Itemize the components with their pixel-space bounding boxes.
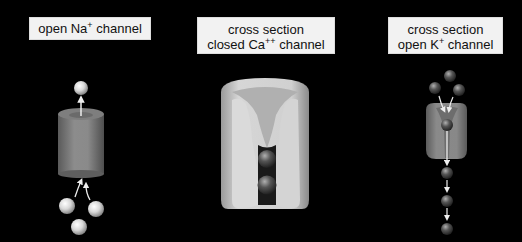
k-channel-panel (426, 70, 467, 235)
arrow-icon (86, 185, 90, 200)
na-channel-panel (58, 81, 104, 235)
k-ion (441, 119, 453, 131)
k-ion (441, 223, 453, 235)
ca-ion (258, 176, 277, 195)
na-ion (71, 219, 87, 235)
arrow-icon (75, 181, 81, 197)
na-ion (88, 201, 104, 217)
ca-channel-panel (221, 78, 309, 209)
k-ion (453, 84, 465, 96)
k-ion (429, 82, 441, 94)
na-ion (74, 81, 88, 95)
k-ion (441, 195, 453, 207)
na-ion (59, 198, 75, 214)
ca-ion (258, 150, 276, 168)
k-ion (441, 167, 453, 179)
ion-channel-diagram (0, 0, 522, 242)
k-ion (444, 70, 456, 82)
na-channel-cylinder (58, 108, 104, 178)
